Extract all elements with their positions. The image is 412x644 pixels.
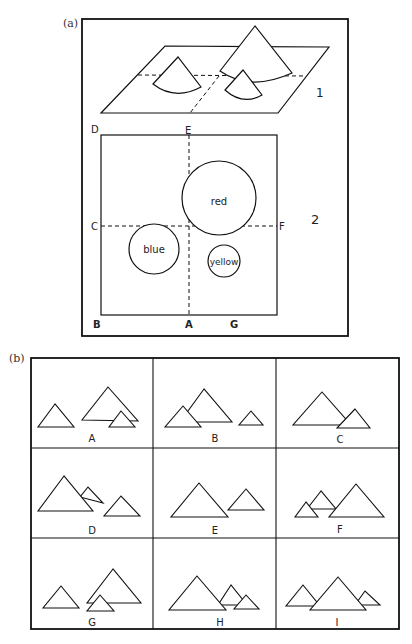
cell-label-D: D	[88, 525, 96, 536]
cone-red	[220, 26, 292, 82]
cell-G-triangles	[43, 569, 141, 611]
circle-yellow-label: yellow	[210, 257, 239, 267]
cell-label-A: A	[89, 433, 96, 444]
cell-label-C: C	[337, 434, 344, 445]
cell-A-triangles	[38, 387, 138, 427]
view-2-label: 2	[311, 212, 319, 227]
panel-a-label: (a)	[63, 17, 78, 30]
corner-label-F: F	[279, 221, 285, 232]
corner-label-B: B	[93, 319, 101, 330]
cell-B-triangles	[165, 389, 263, 427]
cell-label-B: B	[212, 433, 219, 444]
cell-H-triangles	[169, 576, 259, 610]
cell-C-triangles	[293, 392, 370, 428]
circle-red-label: red	[211, 196, 227, 207]
corner-label-D: D	[91, 124, 99, 135]
cell-I-triangles	[286, 577, 380, 610]
cell-E-triangles	[171, 483, 264, 517]
figure: (a) 1 red blue yellow D	[0, 0, 412, 644]
cell-label-G: G	[88, 617, 96, 628]
cell-label-E: E	[212, 525, 218, 536]
top-view-square	[101, 135, 277, 315]
panel-b: (b)	[9, 352, 399, 629]
circle-blue-label: blue	[143, 244, 165, 255]
corner-label-A: A	[185, 319, 193, 330]
cell-label-F: F	[337, 524, 343, 535]
cell-label-I: I	[336, 617, 339, 628]
cell-F-triangles	[295, 484, 384, 517]
corner-label-C: C	[91, 221, 98, 232]
panel-b-label: (b)	[9, 352, 25, 365]
top-view: red blue yellow D E C F B A G 2	[91, 124, 319, 330]
cell-label-H: H	[216, 617, 224, 628]
cell-D-triangles	[38, 476, 140, 516]
perspective-view: 1	[101, 26, 329, 113]
corner-label-G: G	[230, 319, 238, 330]
corner-label-E: E	[185, 125, 191, 136]
view-1-label: 1	[316, 86, 324, 100]
ground-plane	[101, 46, 329, 113]
panel-a: (a) 1 red blue yellow D	[63, 17, 348, 336]
